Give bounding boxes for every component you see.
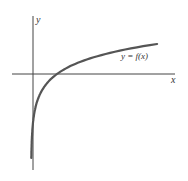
y-axis-label: y bbox=[35, 14, 41, 25]
graph: y x y = f(x) bbox=[0, 0, 188, 181]
curve-label: y = f(x) bbox=[120, 51, 148, 61]
x-axis-label: x bbox=[170, 74, 176, 85]
curve-f-of-x bbox=[31, 44, 157, 158]
